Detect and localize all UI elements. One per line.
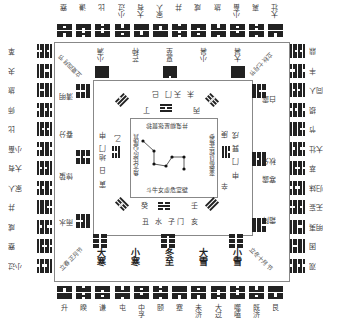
- big-dipper: [0, 0, 337, 327]
- dipper-star: [141, 139, 144, 142]
- dipper-line: [143, 141, 184, 169]
- diagram-root: 蹇谦比小过大有家人井咸旅小畜离大壮 升睽谦屯中孚颐蹇未济大过噬嗑既济艮 革夬旅师…: [0, 0, 337, 327]
- dipper-star: [170, 155, 173, 158]
- dipper-star: [182, 155, 185, 158]
- dipper-star: [152, 149, 155, 152]
- dipper-star: [152, 162, 155, 165]
- dipper-star: [164, 164, 167, 167]
- dipper-star: [182, 167, 185, 170]
